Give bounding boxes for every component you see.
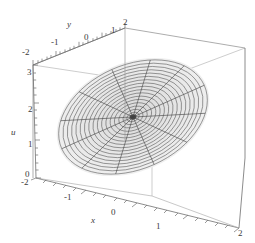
u-axis-title: u <box>11 128 16 137</box>
y-tick-label: 2 <box>123 18 128 27</box>
x-tick-label: 0 <box>111 208 116 217</box>
x-tick-label: 1 <box>156 222 161 231</box>
plot-canvas: -2 -1 0 1 2 -2 -1 0 1 2 0 1 2 3 x y u <box>0 0 255 243</box>
y-axis-title: y <box>67 20 71 29</box>
y-tick-label: 1 <box>111 26 116 35</box>
x-tick-label: 2 <box>238 229 243 238</box>
y-tick-label: -1 <box>51 38 59 47</box>
x-tick-label: -1 <box>64 193 72 202</box>
x-axis-title: x <box>91 216 95 225</box>
x-tick-label: -2 <box>21 178 29 187</box>
y-tick-label: 0 <box>84 33 89 42</box>
u-tick-label: 3 <box>27 68 32 77</box>
surface-plot-graphic <box>0 0 255 243</box>
x-axis-ticks <box>31 178 239 232</box>
u-tick-label: 0 <box>25 170 30 179</box>
u-tick-label: 2 <box>28 105 33 114</box>
surface-apex-point <box>130 115 136 120</box>
y-tick-label: -2 <box>22 48 30 57</box>
u-tick-label: 1 <box>28 140 33 149</box>
